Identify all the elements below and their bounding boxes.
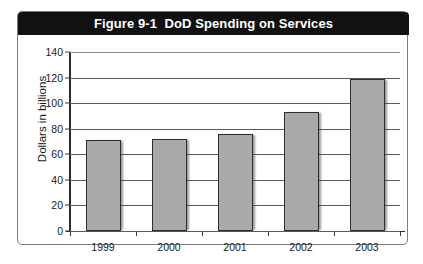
bar [350,79,385,231]
figure-title-bar: Figure 9-1 DoD Spending on Services [18,12,409,35]
x-tick-mark [334,232,335,236]
y-tick-mark [65,77,70,78]
y-tick-label: 0 [57,225,63,237]
x-tick-mark [202,232,203,236]
y-tick-mark [65,179,70,180]
bar [86,140,121,231]
x-tick-mark [268,232,269,236]
y-tick-mark [65,103,70,104]
x-tick-label: 2002 [289,241,312,253]
x-tick-mark [136,232,137,236]
gridline [70,52,400,53]
x-tick-label: 2003 [355,241,378,253]
y-tick-mark [65,154,70,155]
x-tick-mark [70,232,71,236]
bar [152,139,187,231]
y-tick-label: 20 [51,199,63,211]
y-tick-label: 40 [51,174,63,186]
x-tick-mark [400,232,401,236]
plot-area: 020406080100120140 19992000200120022003 [70,52,400,231]
y-tick-label: 120 [45,72,63,84]
y-tick-label: 100 [45,97,63,109]
y-tick-mark [65,205,70,206]
plot-region: Dollars in billions 020406080100120140 1… [18,35,409,245]
y-tick-mark [65,52,70,53]
x-tick-label: 1999 [91,241,114,253]
bar [284,112,319,231]
x-tick-label: 2001 [223,241,246,253]
gridline [70,231,400,232]
bar [218,134,253,231]
y-tick-label: 140 [45,46,63,58]
figure-title: Figure 9-1 DoD Spending on Services [94,16,333,31]
x-tick-label: 2000 [157,241,180,253]
y-tick-label: 60 [51,148,63,160]
figure-frame: Figure 9-1 DoD Spending on Services Doll… [17,11,408,245]
y-tick-label: 80 [51,123,63,135]
y-tick-mark [65,128,70,129]
y-axis-title: Dollars in billions [36,49,48,189]
